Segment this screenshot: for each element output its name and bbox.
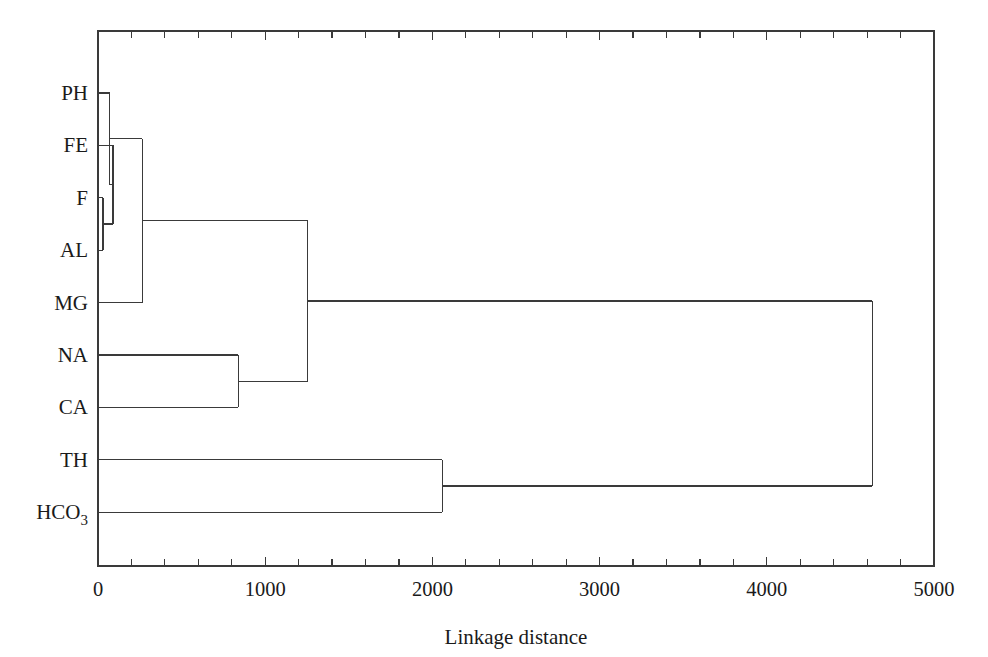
x-tick-label: 4000: [746, 578, 787, 600]
figure-background: [0, 0, 988, 657]
x-tick-label: 3000: [579, 578, 620, 600]
dendrogram-figure: 010002000300040005000 PHFEFALMGNACATHHCO…: [0, 0, 988, 657]
leaf-label-th: TH: [60, 448, 88, 472]
leaf-label-f: F: [76, 186, 88, 210]
leaf-label-hco3: HCO3: [36, 500, 88, 528]
leaf-label-ca: CA: [59, 395, 89, 419]
x-tick-label: 2000: [412, 578, 453, 600]
leaf-label-mg: MG: [54, 291, 88, 315]
leaf-label-subscript: 3: [81, 512, 89, 528]
x-tick-label: 1000: [245, 578, 286, 600]
x-tick-label: 0: [93, 578, 103, 600]
x-axis-title-text: Linkage distance: [445, 625, 588, 649]
dendrogram-canvas: 010002000300040005000 PHFEFALMGNACATHHCO…: [0, 0, 988, 657]
x-axis-title: Linkage distance: [445, 625, 588, 649]
x-tick-label: 5000: [914, 578, 955, 600]
leaf-label-na: NA: [58, 343, 89, 367]
leaf-label-ph: PH: [61, 81, 88, 105]
leaf-label-al: AL: [60, 238, 88, 262]
leaf-label-fe: FE: [63, 133, 88, 157]
